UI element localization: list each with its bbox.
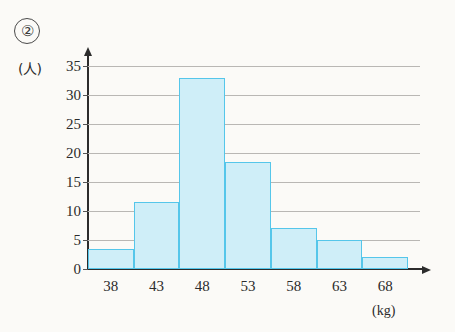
y-axis-tick-label: 15	[66, 175, 81, 190]
y-axis-tick-label: 10	[66, 204, 81, 219]
histogram-bar	[179, 78, 225, 269]
x-axis-tick-label: 38	[103, 279, 118, 294]
y-axis-tick-label: 25	[66, 117, 81, 132]
y-axis-tick-label: 35	[66, 59, 81, 74]
y-axis-arrow-icon	[84, 47, 92, 56]
x-axis-tick-label: 68	[378, 279, 393, 294]
histogram-bar	[225, 162, 271, 269]
bar-series	[88, 66, 408, 269]
x-axis-tick-label: 53	[241, 279, 256, 294]
x-axis-tick-label: 63	[332, 279, 347, 294]
x-axis-unit-label: (kg)	[372, 303, 395, 319]
x-axis-tick-label: 43	[149, 279, 164, 294]
y-axis-tick-label: 0	[74, 262, 82, 277]
plot-area: 05101520253035 38434853586368	[88, 66, 408, 269]
x-axis-tick-label: 48	[195, 279, 210, 294]
y-axis-tick-label: 5	[74, 233, 82, 248]
y-axis-tick-mark	[83, 269, 88, 270]
histogram-bar	[88, 249, 134, 269]
x-axis-tick-label: 58	[286, 279, 301, 294]
histogram-page: ② (人) (kg) 05101520253035 38434853586368	[0, 0, 455, 332]
y-axis-tick-label: 30	[66, 88, 81, 103]
histogram-bar	[271, 228, 317, 269]
y-axis-tick-label: 20	[66, 146, 81, 161]
histogram-bar	[362, 257, 408, 269]
problem-number: ②	[14, 18, 40, 44]
y-axis-unit-label: (人)	[18, 58, 41, 78]
x-axis-arrow-icon	[422, 266, 431, 274]
histogram-bar	[134, 202, 180, 269]
histogram-bar	[317, 240, 363, 269]
